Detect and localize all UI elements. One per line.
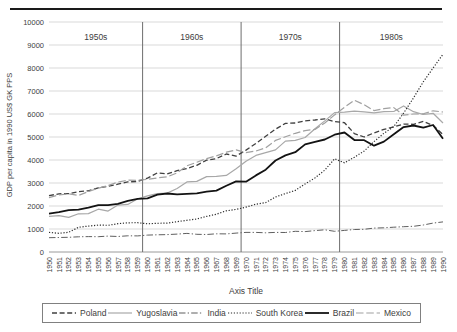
x-axis-title: Axis Title <box>49 286 443 296</box>
y-tick-label: 10000 <box>23 18 44 27</box>
x-tick-label: 1962 <box>164 257 171 273</box>
x-tick-label: 1974 <box>282 257 289 273</box>
legend-item-india: India <box>179 308 225 318</box>
legend-label: Mexico <box>384 308 411 318</box>
decade-label: 1980s <box>380 32 403 42</box>
legend-label: South Korea <box>256 308 303 318</box>
x-tick-label: 1987 <box>410 257 417 273</box>
x-tick-label: 1979 <box>331 257 338 273</box>
chart: GDP per capita in 1990 US$ GK PPS 010002… <box>0 0 457 332</box>
x-tick-label: 1975 <box>292 257 299 273</box>
x-tick-label: 1968 <box>223 257 230 273</box>
x-tick-label: 1963 <box>174 257 181 273</box>
y-tick-label: 7000 <box>27 87 44 96</box>
legend-label: Brazil <box>333 308 354 318</box>
y-tick-label: 1000 <box>27 225 44 234</box>
x-tick-label: 1970 <box>243 257 250 273</box>
legend-line-sample <box>108 309 132 317</box>
legend-line-sample <box>228 309 252 317</box>
x-tick-label: 1989 <box>430 257 437 273</box>
y-tick-label: 4000 <box>27 156 44 165</box>
legend-item-brazil: Brazil <box>305 308 354 318</box>
x-tick-label: 1971 <box>253 257 260 273</box>
x-tick-label: 1980 <box>341 257 348 273</box>
decade-label: 1970s <box>279 32 302 42</box>
legend-label: Poland <box>80 308 106 318</box>
y-tick-label: 0 <box>40 248 44 257</box>
x-tick-label: 1954 <box>85 257 92 273</box>
x-tick-label: 1952 <box>65 257 72 273</box>
x-tick-label: 1967 <box>213 257 220 273</box>
x-tick-label: 1988 <box>420 257 427 273</box>
series-india <box>49 222 443 238</box>
series-poland <box>49 119 443 196</box>
y-tick-label: 9000 <box>27 41 44 50</box>
x-tick-label: 1956 <box>105 257 112 273</box>
legend-item-poland: Poland <box>52 308 106 318</box>
legend-line-sample <box>52 309 76 317</box>
decade-label: 1960s <box>180 32 203 42</box>
x-tick-label: 1953 <box>75 257 82 273</box>
x-tick-label: 1957 <box>115 257 122 273</box>
legend-item-yugoslavia: Yugoslavia <box>108 308 177 318</box>
x-tick-label: 1972 <box>262 257 269 273</box>
x-tick-label: 1958 <box>124 257 131 273</box>
x-tick-label: 1982 <box>361 257 368 273</box>
x-tick-label: 1960 <box>144 257 151 273</box>
x-tick-label: 1990 <box>440 257 447 273</box>
x-tick-label: 1985 <box>390 257 397 273</box>
legend: PolandYugoslaviaIndiaSouth KoreaBrazilMe… <box>42 303 421 323</box>
legend-line-sample <box>356 309 380 317</box>
legend-label: Yugoslavia <box>136 308 177 318</box>
x-tick-label: 1969 <box>233 257 240 273</box>
y-tick-label: 2000 <box>27 202 44 211</box>
x-tick-label: 1981 <box>351 257 358 273</box>
series-yugoslavia <box>49 106 443 217</box>
plot-area: 0100020003000400050006000700080009000100… <box>0 0 457 300</box>
x-tick-label: 1959 <box>134 257 141 273</box>
x-tick-label: 1961 <box>154 257 161 273</box>
x-tick-label: 1966 <box>203 257 210 273</box>
x-tick-label: 1955 <box>95 257 102 273</box>
x-tick-label: 1964 <box>184 257 191 273</box>
legend-item-south-korea: South Korea <box>228 308 303 318</box>
x-tick-label: 1984 <box>381 257 388 273</box>
x-tick-label: 1983 <box>371 257 378 273</box>
decade-label: 1950s <box>84 32 107 42</box>
x-tick-label: 1973 <box>272 257 279 273</box>
legend-label: India <box>207 308 225 318</box>
x-tick-label: 1951 <box>56 257 63 273</box>
legend-item-mexico: Mexico <box>356 308 411 318</box>
legend-line-sample <box>305 309 329 317</box>
series-brazil <box>49 125 443 214</box>
x-tick-label: 1978 <box>321 257 328 273</box>
legend-line-sample <box>179 309 203 317</box>
y-tick-label: 3000 <box>27 179 44 188</box>
x-tick-label: 1976 <box>302 257 309 273</box>
x-tick-label: 1977 <box>312 257 319 273</box>
y-tick-label: 6000 <box>27 110 44 119</box>
y-tick-label: 8000 <box>27 64 44 73</box>
x-tick-label: 1950 <box>46 257 53 273</box>
x-tick-label: 1965 <box>193 257 200 273</box>
y-tick-label: 5000 <box>27 133 44 142</box>
x-tick-label: 1986 <box>400 257 407 273</box>
